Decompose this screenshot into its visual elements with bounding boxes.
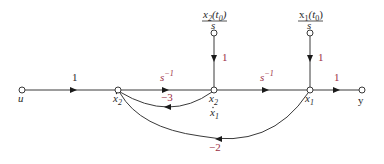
- gain-label: −3: [161, 91, 173, 103]
- svg-text:s: s: [211, 19, 215, 31]
- node-label-ic2: x2(t0) s: [202, 8, 227, 31]
- node-label-ic1: x1(t0) s: [298, 8, 323, 31]
- gain-label: 1: [318, 51, 324, 63]
- node-label-x2: x2: [208, 92, 218, 107]
- signal-flow-graph: 1 s−1 s−1 1 1 1 −3 −2: [0, 0, 384, 164]
- gain-label: 1: [72, 71, 78, 83]
- edge-u-to-x2dot: 1: [25, 71, 115, 93]
- arrow-left-icon: [164, 104, 171, 110]
- node-label-x1dot: x1: [209, 106, 219, 121]
- node-y: [359, 87, 365, 93]
- edge-ic1-to-x1: 1: [307, 36, 324, 87]
- gain-label: 1: [334, 71, 340, 83]
- edge-x2-to-x1: s−1: [217, 69, 307, 93]
- node-label-y: y: [358, 94, 364, 106]
- dot-accent: [116, 93, 117, 94]
- edge-x2dot-to-x2: s−1: [121, 69, 211, 93]
- node-label-x1: x1: [304, 92, 314, 107]
- edge-ic2-to-x2: 1: [211, 36, 228, 87]
- edge-x2-to-x2dot-feedback: −3: [120, 91, 212, 110]
- arrow-right-icon: [262, 87, 269, 93]
- edge-x1-to-y: 1: [313, 71, 359, 93]
- gain-label: 1: [222, 51, 228, 63]
- dot-accent: [212, 107, 213, 108]
- svg-text:s: s: [307, 19, 311, 31]
- arrow-right-icon: [70, 87, 77, 93]
- gain-label: −2: [209, 141, 221, 153]
- node-label-u: u: [18, 92, 24, 104]
- arrow-down-icon: [307, 55, 313, 62]
- gain-label: s−1: [260, 69, 274, 83]
- arrow-right-icon: [333, 87, 340, 93]
- arrow-down-icon: [211, 55, 217, 62]
- svg-text:x1: x1: [209, 106, 219, 121]
- gain-label: s−1: [160, 69, 174, 83]
